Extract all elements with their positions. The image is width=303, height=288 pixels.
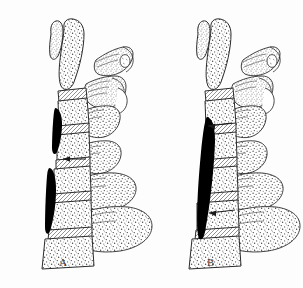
vertebral-body-b6 [189, 236, 241, 269]
panel-label-a: A [59, 256, 67, 268]
spine-illustration-svg [0, 0, 303, 288]
vertebral-body-a5 [50, 200, 92, 231]
vertebral-body-a4 [54, 166, 91, 195]
process-facet-b1 [267, 55, 277, 68]
panel-label-b: B [207, 256, 215, 268]
vertebral-body-a6 [42, 236, 94, 269]
vertebral-body-a2 [58, 98, 89, 127]
vertebral-body-a3 [57, 132, 90, 161]
figure-root: A B [0, 0, 303, 288]
process-facet-a1 [120, 55, 130, 68]
